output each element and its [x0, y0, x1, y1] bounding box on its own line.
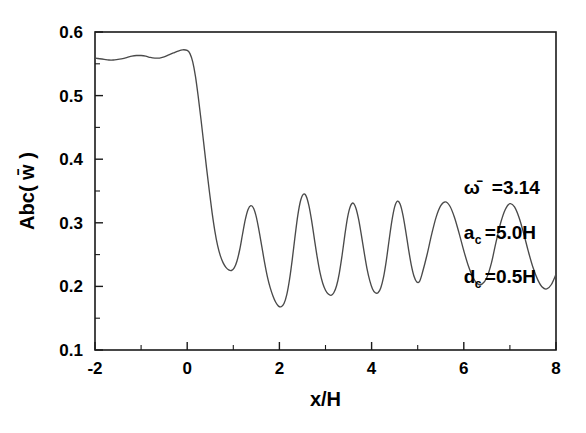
plot-svg: -2024680.10.20.30.40.50.6x/HAbc( w̄ )ω̄ … [0, 0, 586, 433]
y-axis-tick-label: 0.3 [59, 214, 83, 233]
annotation-subscript: c [475, 233, 482, 247]
y-axis-title: Abc( w̄ ) [16, 152, 38, 230]
annotation-symbol: a [464, 222, 475, 243]
x-axis-tick-label: 8 [551, 359, 560, 378]
y-axis-tick-label: 0.4 [59, 150, 83, 169]
x-axis-tick-label: 4 [367, 359, 377, 378]
y-axis-tick-label: 0.1 [59, 341, 83, 360]
annotation-subscript: c [475, 277, 482, 291]
annotation-symbol: d [464, 266, 476, 287]
plot-annotation: ω̄ =3.14 [464, 177, 541, 198]
x-axis-tick-label: 0 [182, 359, 191, 378]
annotation-value: =0.5H [485, 266, 536, 287]
annotation-value: =5.0H [485, 222, 536, 243]
annotation-value: =3.14 [492, 177, 541, 198]
x-axis-title: x/H [310, 388, 341, 410]
x-axis-tick-label: 6 [459, 359, 468, 378]
figure-container: -2024680.10.20.30.40.50.6x/HAbc( w̄ )ω̄ … [0, 0, 586, 433]
x-axis-tick-label: -2 [87, 359, 102, 378]
y-axis-tick-label: 0.6 [59, 23, 83, 42]
y-axis-tick-label: 0.5 [59, 87, 83, 106]
x-axis-tick-label: 2 [275, 359, 284, 378]
plot-area-background [95, 32, 556, 350]
y-axis-tick-label: 0.2 [59, 277, 83, 296]
